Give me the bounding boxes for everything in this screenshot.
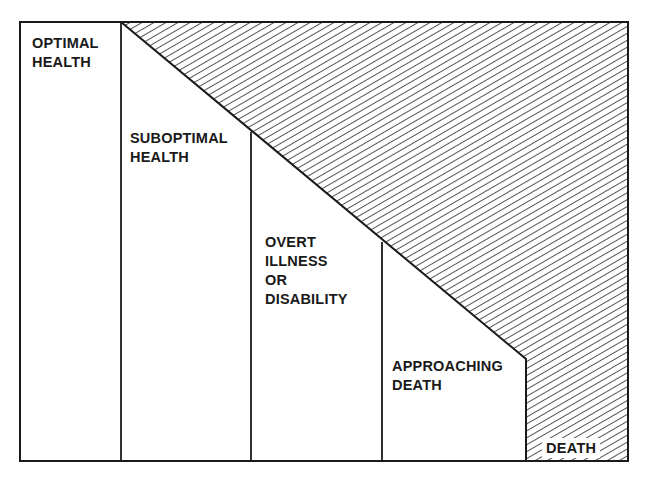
stage-label-overt-illness: OVERT ILLNESS OR DISABILITY <box>265 233 348 309</box>
stage-label-optimal-health: OPTIMAL HEALTH <box>32 34 99 72</box>
stage-label-suboptimal-health: SUBOPTIMAL HEALTH <box>130 129 228 167</box>
stage-label-approaching-death: APPROACHING DEATH <box>392 357 503 395</box>
stage-label-death: DEATH <box>542 438 600 458</box>
